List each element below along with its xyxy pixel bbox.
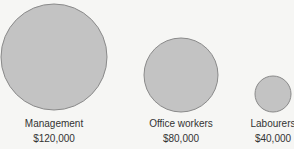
- value-label: $40,000: [218, 133, 294, 145]
- bubble-chart: Management $120,000 Office workers $80,0…: [0, 0, 294, 149]
- value-label: $120,000: [0, 133, 109, 145]
- bubble-office-workers: [144, 38, 218, 112]
- label-management: Management $120,000: [0, 118, 109, 145]
- label-labourers: Labourers $40,000: [218, 118, 294, 145]
- category-label: Labourers: [218, 118, 294, 130]
- bubble-labourers: [255, 76, 291, 112]
- category-label: Management: [0, 118, 109, 130]
- bubble-management: [1, 4, 107, 110]
